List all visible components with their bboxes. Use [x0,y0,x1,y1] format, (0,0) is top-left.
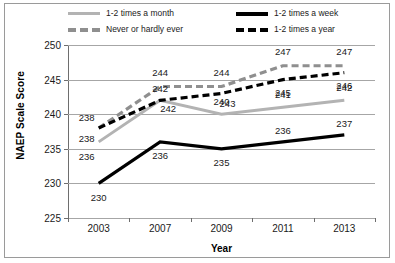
data-point-label: 238 [79,133,95,144]
y-tick-label: 225 [44,213,61,224]
plot-area: 225230235240245250 20032007200920112013 … [68,45,375,218]
x-tick-mark [375,218,376,222]
y-axis-title: NAEP Scale Score [15,56,26,176]
data-point-label: 235 [214,156,230,167]
legend-swatch-black-dashed-icon [236,28,268,32]
y-tick-label: 240 [44,109,61,120]
data-point-label: 236 [152,149,168,160]
data-point-label: 236 [275,124,291,135]
legend-label: Never or hardly ever [106,25,183,34]
legend-item-1-2-times-a-week: 1-2 times a week [236,9,338,18]
x-tick-label: 2011 [272,223,294,234]
legend-item-never-or-hardly-ever: Never or hardly ever [68,25,183,34]
data-point-label: 242 [152,83,168,94]
x-tick-label: 2007 [149,223,171,234]
legend-swatch-gray-dashed-icon [68,28,100,32]
x-tick-mark [129,218,130,222]
legend-swatch-gray-solid-icon [68,12,100,15]
data-point-label: 230 [91,192,107,203]
legend-label: 1-2 times a month [106,9,174,18]
data-point-label: 242 [160,103,176,114]
legend-label: 1-2 times a year [274,25,335,34]
legend-item-1-2-times-a-year: 1-2 times a year [236,25,335,34]
x-tick-label: 2003 [88,223,110,234]
data-point-label: 236 [79,150,95,161]
legend-item-1-2-times-a-month: 1-2 times a month [68,9,174,18]
data-point-label: 237 [336,117,352,128]
chart-figure: 1-2 times a month Never or hardly ever 1… [0,0,395,263]
data-point-label: 247 [336,45,352,56]
x-tick-label: 2013 [333,223,355,234]
y-tick-label: 230 [44,178,61,189]
data-point-label: 246 [336,79,352,90]
data-point-label: 244 [214,66,230,77]
data-point-label: 238 [79,112,95,123]
x-tick-mark [68,218,69,222]
x-tick-label: 2009 [210,223,232,234]
x-tick-mark [252,218,253,222]
y-tick-label: 250 [44,40,61,51]
legend-label: 1-2 times a week [274,9,338,18]
data-point-label: 247 [275,45,291,56]
legend-swatch-black-solid-icon [236,12,268,16]
chart-legend: 1-2 times a month Never or hardly ever 1… [68,9,368,41]
x-tick-mark [191,218,192,222]
data-point-label: 245 [275,86,291,97]
gridline [68,218,375,219]
y-tick-label: 235 [44,143,61,154]
x-axis-title: Year [68,243,375,254]
y-tick-label: 245 [44,74,61,85]
data-point-label: 244 [152,66,168,77]
x-tick-mark [314,218,315,222]
data-point-label: 243 [220,98,236,109]
